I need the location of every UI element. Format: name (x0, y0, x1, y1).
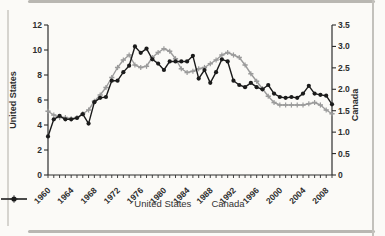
svg-text:0: 0 (37, 170, 42, 180)
svg-text:3.5: 3.5 (338, 20, 350, 30)
legend-label-canada: Canada (211, 198, 244, 209)
svg-text:2.0: 2.0 (338, 84, 350, 94)
svg-text:1.5: 1.5 (338, 106, 350, 116)
svg-text:3.0: 3.0 (338, 41, 350, 51)
y-axis-right: 00.51.01.52.02.53.03.5 (332, 20, 350, 180)
svg-text:12: 12 (33, 20, 43, 30)
svg-text:0.5: 0.5 (338, 149, 350, 159)
chart-figure: 02468101200.51.01.52.02.53.03.5196019641… (0, 0, 385, 236)
svg-text:6: 6 (37, 95, 42, 105)
svg-text:4: 4 (37, 120, 42, 130)
svg-text:8: 8 (37, 70, 42, 80)
svg-text:2: 2 (37, 145, 42, 155)
axes (48, 25, 332, 175)
svg-text:10: 10 (33, 45, 43, 55)
legend: United States Canada (0, 194, 375, 212)
series-canada (46, 44, 334, 138)
svg-text:1.0: 1.0 (338, 127, 350, 137)
svg-text:0: 0 (338, 170, 343, 180)
left-axis-title: United States (8, 65, 18, 135)
right-axis-title: Canada (350, 77, 360, 133)
series-united-states (45, 46, 334, 121)
legend-item-united-states: United States (130, 198, 191, 209)
legend-item-canada: Canada (207, 198, 244, 209)
y-axis-left: 024681012 (33, 20, 48, 180)
legend-label-united-states: United States (134, 198, 191, 209)
svg-text:2.5: 2.5 (338, 63, 350, 73)
